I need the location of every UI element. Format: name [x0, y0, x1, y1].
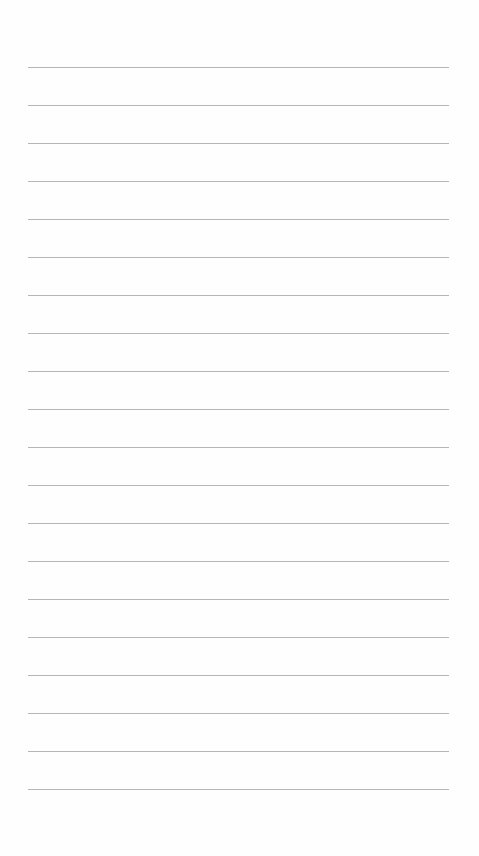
ruled-line — [28, 713, 449, 714]
ruled-line — [28, 561, 449, 562]
ruled-line — [28, 789, 449, 790]
ruled-line — [28, 523, 449, 524]
ruled-line — [28, 637, 449, 638]
ruled-line — [28, 257, 449, 258]
ruled-line — [28, 181, 449, 182]
ruled-line — [28, 219, 449, 220]
ruled-line — [28, 295, 449, 296]
ruled-line — [28, 67, 449, 68]
ruled-line — [28, 371, 449, 372]
ruled-line — [28, 751, 449, 752]
ruled-line — [28, 409, 449, 410]
ruled-line — [28, 675, 449, 676]
lined-page — [0, 0, 479, 856]
ruled-line — [28, 485, 449, 486]
ruled-line — [28, 599, 449, 600]
ruled-line — [28, 447, 449, 448]
ruled-line — [28, 143, 449, 144]
ruled-line — [28, 105, 449, 106]
ruled-line — [28, 333, 449, 334]
